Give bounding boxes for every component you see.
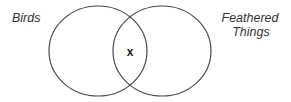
venn-diagram: Birds Feathered Things x <box>0 0 291 102</box>
set-label-birds: Birds <box>12 11 40 25</box>
intersection-marker: x <box>127 45 134 59</box>
set-label-feathered-line1: Feathered <box>222 11 280 25</box>
set-label-feathered-line2: Things <box>232 25 270 39</box>
